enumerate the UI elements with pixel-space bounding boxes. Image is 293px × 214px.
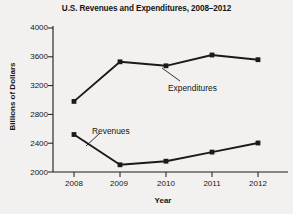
series-line-revenues [72, 132, 261, 167]
data-point-revenues-2012 [256, 141, 261, 146]
data-point-revenues-2010 [164, 159, 169, 164]
chart-figure: U.S. Revenues and Expenditures, 2008–201… [0, 0, 293, 214]
data-point-revenues-2008 [72, 132, 77, 137]
x-axis-ticks [74, 172, 258, 177]
data-point-revenues-2009 [118, 162, 123, 167]
data-point-expenditures-2012 [256, 57, 261, 62]
y-axis-ticks [48, 28, 53, 172]
leader-line-expenditures [162, 68, 180, 81]
plot-area [0, 0, 293, 214]
data-point-expenditures-2008 [72, 99, 77, 104]
data-point-expenditures-2011 [210, 53, 215, 58]
data-point-expenditures-2009 [118, 59, 123, 64]
data-point-expenditures-2010 [164, 63, 169, 68]
series-line-expenditures [72, 53, 261, 104]
leader-line-revenues [86, 133, 100, 146]
data-point-revenues-2011 [210, 150, 215, 155]
